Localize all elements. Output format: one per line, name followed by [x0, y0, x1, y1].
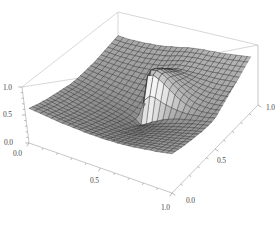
- surface-mesh: [29, 36, 258, 154]
- z-tick-label-3: 0.0: [4, 138, 13, 147]
- plot-canvas: [0, 0, 275, 231]
- z-tick-label-1: 1.0: [3, 83, 12, 92]
- y-tick-label-1: 0.0: [186, 196, 195, 205]
- y-tick-label-3: 1.0: [266, 103, 275, 112]
- figure-caption: [5, 220, 130, 226]
- x-tick-label-2: 0.5: [90, 176, 99, 185]
- z-tick-label-2: 0.5: [3, 110, 12, 119]
- y-tick-label-2: 0.5: [217, 156, 226, 165]
- x-tick-label-3: 1.0: [161, 203, 170, 212]
- x-tick-label-1: 0.0: [13, 149, 22, 158]
- surface-plot-figure: 1.0 0.5 0.0 0.0 0.5 1.0 0.0 0.5 1.0: [0, 0, 275, 231]
